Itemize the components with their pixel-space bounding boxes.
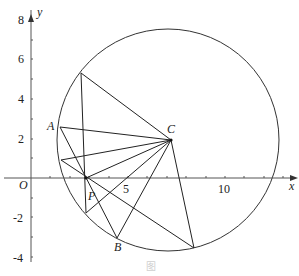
origin-label: O — [19, 178, 28, 192]
segments — [60, 73, 194, 248]
y-tick-8: 8 — [18, 13, 24, 27]
y-axis-arrow-icon — [28, 14, 34, 22]
y-tick-6: 6 — [18, 52, 24, 66]
y-tick-neg2: -2 — [13, 211, 23, 225]
point-label-c: C — [167, 122, 176, 136]
x-tick-10: 10 — [218, 182, 230, 196]
point-c — [169, 138, 172, 141]
x-axis-label: x — [288, 179, 295, 193]
y-tick-4: 4 — [18, 92, 24, 106]
x-tick-5: 5 — [123, 182, 129, 196]
point-p — [84, 176, 87, 179]
y-tick-2: 2 — [18, 132, 24, 146]
geometry-diagram: y x O 8 6 4 2 -2 -4 5 10 A C P B 图 — [0, 0, 299, 276]
y-axis-label: y — [36, 5, 43, 19]
point-label-p: P — [87, 189, 96, 203]
point-label-b: B — [114, 240, 122, 254]
x-axis — [4, 176, 292, 178]
y-axis — [31, 10, 33, 262]
point-label-a: A — [46, 119, 55, 133]
figure-caption: 图 — [146, 261, 156, 272]
y-tick-neg4: -4 — [13, 251, 23, 265]
